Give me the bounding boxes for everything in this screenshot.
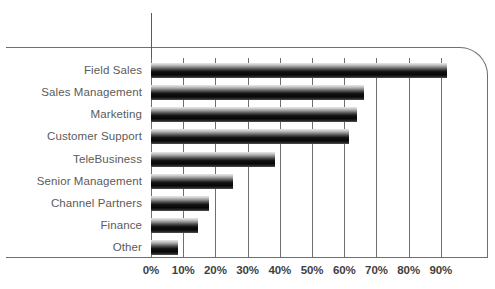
- category-label-sales-management: Sales Management: [41, 86, 142, 99]
- bar-marketing: [151, 107, 357, 122]
- bar-telebusiness: [151, 152, 275, 167]
- category-label-telebusiness: TeleBusiness: [73, 153, 142, 166]
- x-tick-label-40: 40%: [268, 263, 291, 277]
- x-axis-tick-labels: 0%10%20%30%40%50%60%70%80%90%: [151, 263, 461, 283]
- bar-field-sales: [151, 63, 447, 78]
- category-label-senior-management: Senior Management: [37, 175, 142, 188]
- category-label-customer-support: Customer Support: [47, 130, 142, 143]
- x-tick-label-50: 50%: [301, 263, 324, 277]
- x-tick-label-0: 0%: [143, 263, 159, 277]
- category-label-marketing: Marketing: [91, 108, 142, 121]
- category-label-field-sales: Field Sales: [84, 64, 142, 77]
- x-tick-label-10: 10%: [172, 263, 195, 277]
- x-tick-label-30: 30%: [236, 263, 259, 277]
- bar-chart-figure: Field SalesSales ManagementMarketingCust…: [0, 0, 495, 289]
- gridline-80: [409, 58, 410, 258]
- bar-customer-support: [151, 129, 349, 144]
- category-label-channel-partners: Channel Partners: [51, 197, 142, 210]
- plot-area: [151, 58, 457, 258]
- x-tick-label-70: 70%: [365, 263, 388, 277]
- gridline-70: [376, 58, 377, 258]
- x-tick-label-60: 60%: [333, 263, 356, 277]
- gridline-90: [441, 58, 442, 258]
- bar-other: [151, 240, 178, 255]
- x-tick-label-20: 20%: [204, 263, 227, 277]
- x-tick-label-80: 80%: [397, 263, 420, 277]
- cut-off-header-text: [3, 0, 183, 7]
- category-label-finance: Finance: [100, 219, 142, 232]
- x-tick-label-90: 90%: [430, 263, 453, 277]
- bar-finance: [151, 218, 198, 233]
- bar-channel-partners: [151, 196, 209, 211]
- category-label-other: Other: [113, 241, 142, 254]
- bar-sales-management: [151, 85, 364, 100]
- category-axis-labels: Field SalesSales ManagementMarketingCust…: [0, 58, 146, 258]
- bar-senior-management: [151, 174, 233, 189]
